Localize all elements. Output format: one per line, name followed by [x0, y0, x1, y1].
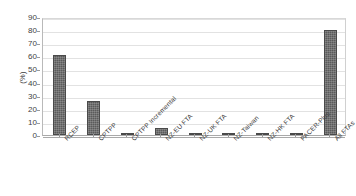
x-axis-tick-labels: RCEPCPTPPCPTPP IncrementalNZ-EU FTANZ-UK…: [42, 137, 346, 195]
y-tick-mark: [37, 57, 40, 58]
y-tick-mark: [37, 31, 40, 32]
x-tick-mark: [59, 134, 60, 137]
x-tick-mark: [329, 134, 330, 137]
y-tick-mark: [37, 70, 40, 71]
x-tick-mark: [126, 134, 127, 137]
x-tick-mark: [295, 134, 296, 137]
y-axis-tick-labels: 0102030405060708090: [0, 18, 40, 136]
y-tick-label: 60: [28, 53, 37, 61]
y-tick-mark: [37, 18, 40, 19]
y-tick-mark: [37, 136, 40, 137]
y-tick-label: 80: [28, 27, 37, 35]
y-tick-label: 30: [28, 93, 37, 101]
x-tick-mark: [262, 134, 263, 137]
x-tick-mark: [228, 134, 229, 137]
x-tick-mark: [93, 134, 94, 137]
x-tick-mark: [194, 134, 195, 137]
bar: [53, 55, 66, 135]
y-tick-mark: [37, 97, 40, 98]
y-tick-label: 70: [28, 40, 37, 48]
y-tick-mark: [37, 44, 40, 45]
x-tick-mark: [160, 134, 161, 137]
y-tick-mark: [37, 123, 40, 124]
y-tick-label: 40: [28, 80, 37, 88]
y-tick-label: 90: [28, 14, 37, 22]
plot-area: [42, 18, 346, 136]
y-tick-label: 20: [28, 106, 37, 114]
bar: [87, 101, 100, 135]
y-tick-label: 50: [28, 66, 37, 74]
y-tick-label: 10: [28, 119, 37, 127]
y-tick-mark: [37, 110, 40, 111]
bar-series: [43, 19, 345, 135]
y-tick-mark: [37, 84, 40, 85]
